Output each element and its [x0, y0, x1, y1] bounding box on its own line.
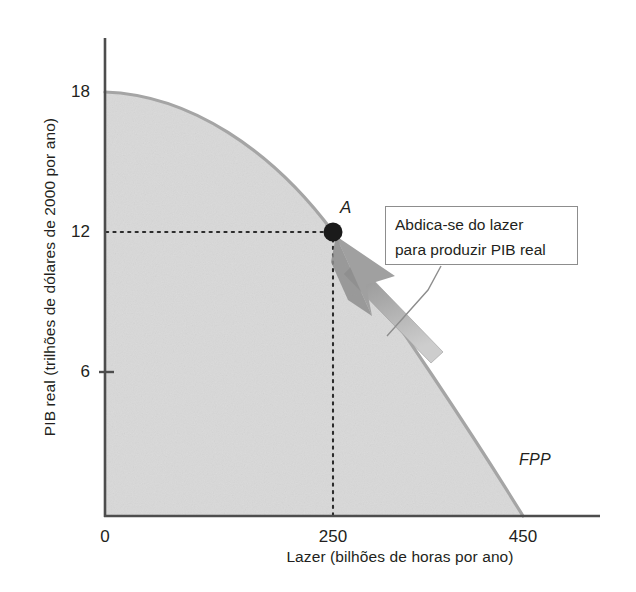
point-a-label: A — [340, 198, 351, 218]
tradeoff-callout-box: Abdica-se do lazer para produzir PIB rea… — [385, 206, 578, 265]
ppf-chart-figure: PIB real (trilhões de dólares de 2000 po… — [0, 0, 636, 592]
x-tick-label-250: 250 — [303, 527, 363, 547]
x-tick-label-0: 0 — [75, 527, 135, 547]
callout-line-1: Abdica-se do lazer — [395, 212, 569, 237]
x-tick-label-450: 450 — [493, 527, 553, 547]
chart-canvas — [0, 0, 636, 592]
x-axis-title: Lazer (bilhões de horas por ano) — [180, 548, 620, 566]
ppf-shaded-region — [105, 92, 523, 516]
ppf-curve-label: FPP — [519, 451, 551, 469]
callout-line-2: para produzir PIB real — [395, 237, 569, 262]
y-axis-title: PIB real (trilhões de dólares de 2000 po… — [41, 42, 59, 512]
y-tick-label-18: 18 — [44, 82, 90, 102]
y-tick-label-12: 12 — [44, 222, 90, 242]
y-tick-label-6: 6 — [44, 362, 90, 382]
point-a-marker — [324, 223, 343, 242]
